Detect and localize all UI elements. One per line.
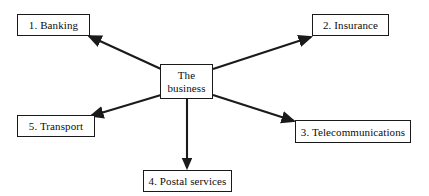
node-telecommunications-label: 3. Telecommunications	[301, 126, 405, 138]
arrow-to-banking	[89, 36, 161, 69]
arrow-to-telecommunications	[213, 95, 294, 121]
center-node-the-business: The business	[160, 64, 213, 99]
center-node-label: The business	[165, 69, 208, 95]
node-postal-services-label: 4. Postal services	[149, 175, 227, 187]
arrow-to-insurance	[213, 37, 311, 69]
node-insurance-label: 2. Insurance	[323, 19, 378, 31]
node-postal-services: 4. Postal services	[143, 170, 232, 192]
diagram-canvas: 1. Banking 2. Insurance The business 5. …	[0, 0, 429, 196]
node-transport: 5. Transport	[17, 115, 95, 137]
node-banking-label: 1. Banking	[29, 19, 78, 31]
node-banking: 1. Banking	[17, 14, 90, 36]
node-transport-label: 5. Transport	[29, 120, 83, 132]
arrow-to-transport	[91, 95, 161, 116]
node-telecommunications: 3. Telecommunications	[295, 120, 411, 143]
node-insurance: 2. Insurance	[312, 14, 389, 36]
